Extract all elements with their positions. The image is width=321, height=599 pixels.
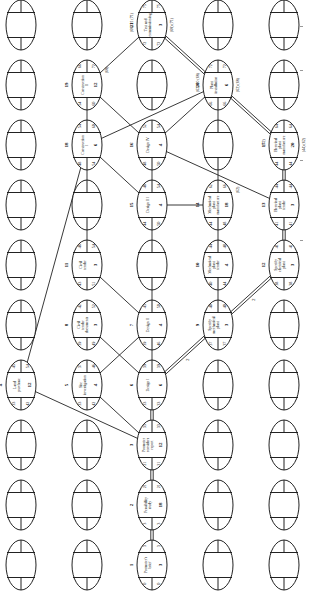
earliest-finish: 72	[208, 64, 213, 68]
latest-finish: 48	[222, 244, 227, 248]
blank-node	[72, 480, 102, 530]
blank-node	[203, 120, 233, 170]
latest-finish: 3	[156, 545, 161, 547]
blank-node	[203, 0, 233, 50]
activity-number: 4	[0, 383, 3, 386]
blank-node	[269, 60, 299, 110]
latest-start: 38	[288, 282, 293, 286]
earliest-start: 48	[142, 162, 147, 166]
activity-number: 13	[261, 202, 266, 208]
earliest-start: 39	[77, 342, 82, 346]
activity-number: 11	[64, 262, 69, 267]
activity-node-19: 19ConstructionII1254606672(68)	[64, 60, 109, 110]
activity-label: brief	[148, 561, 152, 569]
earliest-finish: 21	[142, 484, 147, 488]
activity-duration: 12	[27, 382, 32, 388]
margin-mark	[300, 240, 303, 241]
blank-node	[6, 480, 36, 530]
earliest-finish: 45	[11, 364, 16, 368]
latest-start: 41	[288, 222, 293, 226]
float-note-left: (62)	[261, 139, 266, 146]
earliest-finish: 62	[208, 184, 213, 188]
activity-label: study	[148, 501, 152, 509]
margin-mark	[300, 70, 303, 71]
activity-number: 6	[129, 383, 134, 386]
activity-label: installation	[214, 76, 218, 93]
activity-node-7: 7Design II439464350	[129, 300, 167, 350]
float-note-right: (62) (68)	[235, 77, 240, 92]
latest-start: 37	[222, 342, 227, 346]
activity-number: 9	[195, 323, 200, 326]
activity-number: 16	[129, 142, 134, 148]
blank-node	[6, 60, 36, 110]
activity-label: plant	[216, 320, 220, 329]
earliest-start: 38	[274, 282, 279, 286]
activity-node-10: 10Mechanicalplanttender440444448	[195, 240, 233, 290]
activity-duration: 20	[290, 142, 295, 148]
earliest-start: 0	[142, 583, 147, 585]
latest-finish: 72	[91, 64, 96, 68]
earliest-start: 39	[142, 342, 147, 346]
activity-node-20: 20Plantinstallation666667272(62) 20 (68)…	[195, 60, 240, 110]
latest-finish: 52	[91, 304, 96, 308]
blank-node	[269, 420, 299, 470]
earliest-start: 33	[142, 402, 147, 406]
blank-node	[6, 540, 36, 590]
activity-duration: 18	[224, 202, 229, 208]
edge-lag-label: 2	[185, 358, 190, 361]
latest-start: 42	[91, 402, 96, 406]
earliest-start: 21	[142, 462, 147, 466]
latest-start: 50	[156, 162, 161, 166]
activity-node-2: 2Feasibilitystudy18332121	[129, 480, 167, 530]
earliest-start: 72	[142, 42, 147, 46]
activity-label: plant	[282, 260, 286, 269]
earliest-start: 40	[208, 282, 213, 286]
latest-start: 60	[91, 102, 96, 106]
activity-node-16: 16Design IV448505254	[129, 120, 167, 170]
activity-number: 18	[64, 142, 69, 148]
activity-label: Design I	[146, 378, 150, 392]
activity-label: Design IV	[146, 137, 150, 153]
activity-label: tender	[216, 260, 220, 270]
network-diagram: 22 1Promoter'sbrief300332Feasibilitystud…	[0, 0, 321, 599]
earliest-finish: 41	[274, 244, 279, 248]
float-note-left: (62) 20 (68)	[195, 72, 200, 92]
earliest-finish: 33	[142, 424, 147, 428]
activity-number: 14	[195, 202, 200, 208]
latest-finish: 33	[156, 424, 161, 428]
earliest-finish: 37	[77, 364, 82, 368]
activity-number: 1	[129, 563, 134, 566]
activity-number: 8	[64, 323, 69, 326]
blank-node	[269, 540, 299, 590]
earliest-start: 66	[208, 102, 213, 106]
activity-label: purchase	[17, 378, 21, 392]
blank-node	[72, 0, 102, 50]
activity-label: manufacture	[282, 135, 286, 154]
earliest-finish: 43	[142, 304, 147, 308]
latest-start: 49	[91, 342, 96, 346]
latest-start: 51	[91, 282, 96, 286]
activity-node-21: 21Test andcommissioning372727575(68) 21 …	[129, 0, 174, 50]
activity-label: tender	[282, 200, 286, 210]
earliest-start: 43	[77, 282, 82, 286]
activity-number: 2	[129, 503, 134, 506]
blank-node	[6, 120, 36, 170]
activity-node-18: 18ConstructionI648545460	[64, 120, 102, 170]
float-note-left: (68) 21 (71)	[129, 12, 134, 32]
earliest-finish: 66	[77, 64, 82, 68]
activity-duration: 18	[158, 502, 163, 508]
blank-node	[72, 420, 102, 470]
latest-start: 50	[156, 222, 161, 226]
activity-label: investigation	[83, 375, 87, 395]
latest-finish: 50	[156, 304, 161, 308]
float-note: (68)	[104, 66, 109, 73]
activity-node-5: 5Siteinvestigation433423746	[64, 360, 102, 410]
activity-number: 7	[129, 323, 134, 326]
activity-node-6: 6Design I633333939	[129, 360, 167, 410]
activity-node-1: 1Promoter'sbrief30033	[129, 540, 167, 590]
activity-number: 5	[64, 383, 69, 386]
blank-node	[269, 360, 299, 410]
blank-node	[203, 480, 233, 530]
activity-number: 19	[64, 82, 69, 88]
latest-finish: 66	[222, 184, 227, 188]
